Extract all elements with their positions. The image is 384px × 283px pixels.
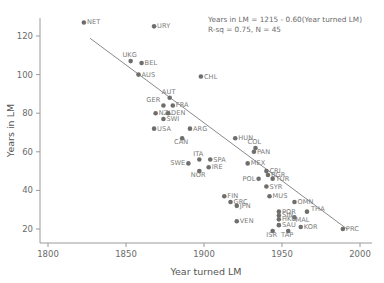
point-marker xyxy=(161,117,166,122)
data-point: NOR xyxy=(191,169,206,179)
point-label: PAN xyxy=(257,148,270,156)
y-tick-label: 20 xyxy=(22,224,33,234)
point-marker xyxy=(277,223,282,228)
point-marker xyxy=(167,95,172,100)
point-marker xyxy=(128,59,133,64)
point-label: SYR xyxy=(269,183,282,191)
point-label: ITA xyxy=(193,150,204,158)
point-marker xyxy=(292,200,297,205)
data-point: ARG xyxy=(188,125,208,133)
point-marker xyxy=(234,204,239,209)
point-marker xyxy=(267,194,272,199)
data-point: AUS xyxy=(136,71,155,79)
data-point: USA xyxy=(152,125,172,133)
data-point: ITA xyxy=(193,150,204,162)
point-label: TAP xyxy=(280,231,293,239)
annotation-line: R-sq = 0.75, N = 45 xyxy=(208,25,281,34)
point-label: VEN xyxy=(240,217,254,225)
data-point: URY xyxy=(152,22,171,30)
point-marker xyxy=(186,161,191,166)
point-marker xyxy=(270,177,275,182)
data-point: NET xyxy=(82,18,102,26)
point-marker xyxy=(277,217,282,222)
point-marker xyxy=(245,161,250,166)
data-point: MUS xyxy=(267,192,287,200)
point-label: MEX xyxy=(251,159,266,167)
data-point: CAN xyxy=(174,136,188,146)
point-label: SWE xyxy=(170,159,185,167)
point-label: MUS xyxy=(273,192,288,200)
point-marker xyxy=(139,61,144,66)
data-point: BEL xyxy=(139,59,157,67)
data-point: VEN xyxy=(234,217,253,225)
x-tick-label: 1950 xyxy=(271,249,293,259)
point-marker xyxy=(82,20,87,25)
point-marker xyxy=(228,200,233,205)
point-marker xyxy=(171,103,176,108)
point-label: SAU xyxy=(282,221,296,229)
point-marker xyxy=(256,177,261,182)
data-point: CHL xyxy=(199,73,218,81)
point-marker xyxy=(234,219,239,224)
point-label: POL xyxy=(242,175,255,183)
point-marker xyxy=(208,157,213,162)
point-marker xyxy=(233,136,238,141)
point-label: KOR xyxy=(304,223,318,231)
data-point: ISR xyxy=(266,229,277,239)
data-point: THA xyxy=(305,205,325,214)
point-marker xyxy=(161,103,166,108)
point-marker xyxy=(264,184,269,189)
plot-area: 2040608010012018001850190019502000 NETUR… xyxy=(0,0,384,283)
y-tick-label: 80 xyxy=(22,108,33,118)
point-label: SWI xyxy=(166,115,179,123)
point-label: CHL xyxy=(204,73,218,81)
point-label: PRC xyxy=(346,225,359,233)
x-tick-label: 1800 xyxy=(37,249,59,259)
y-tick-label: 100 xyxy=(17,70,33,80)
annotation-line: Years in LM = 1215 - 0.60(Year turned LM… xyxy=(207,15,362,24)
point-marker xyxy=(341,227,346,232)
data-point: IRE xyxy=(206,163,222,171)
y-axis-title: Years in LM xyxy=(5,104,16,158)
point-label: THA xyxy=(310,205,325,213)
point-label: CAN xyxy=(174,138,188,146)
y-tick-label: 120 xyxy=(17,31,33,41)
x-tick-label: 1900 xyxy=(193,249,215,259)
data-point: UKG xyxy=(122,51,137,63)
data-point: MEX xyxy=(245,159,265,167)
point-marker xyxy=(266,173,271,178)
point-label: GER xyxy=(146,96,160,104)
point-marker xyxy=(298,225,303,230)
x-tick-label: 1850 xyxy=(115,249,137,259)
point-label: URY xyxy=(157,22,171,30)
axes: 2040608010012018001850190019502000 xyxy=(17,18,372,259)
y-tick-label: 60 xyxy=(22,147,33,157)
data-points: NETURYUKGBELAUSCHLAUTFRAGERNZLDENSWIUSAA… xyxy=(82,18,360,238)
point-marker xyxy=(252,150,257,155)
point-marker xyxy=(222,194,227,199)
y-tick-label: 40 xyxy=(22,185,33,195)
point-marker xyxy=(136,72,141,77)
x-axis-title: Year turned LM xyxy=(169,266,241,277)
data-point: SYR xyxy=(264,183,283,191)
point-label: AUT xyxy=(162,88,177,96)
point-marker xyxy=(153,111,158,116)
point-marker xyxy=(305,209,310,214)
point-label: ISR xyxy=(266,231,277,239)
point-marker xyxy=(152,126,157,131)
point-marker xyxy=(197,157,202,162)
point-label: BEL xyxy=(145,59,158,67)
point-label: USA xyxy=(157,125,171,133)
data-point: SWE xyxy=(170,159,190,167)
data-point: POL xyxy=(242,175,260,183)
point-marker xyxy=(152,24,157,29)
point-label: JPN xyxy=(239,202,251,210)
x-tick-label: 2000 xyxy=(349,249,371,259)
point-marker xyxy=(199,74,204,79)
data-point: SAU xyxy=(277,221,296,229)
point-marker xyxy=(206,165,211,170)
scatter-chart: 2040608010012018001850190019502000 NETUR… xyxy=(0,0,384,283)
data-point: TAP xyxy=(280,229,293,239)
point-label: NET xyxy=(87,18,101,26)
point-label: COL xyxy=(248,138,262,146)
